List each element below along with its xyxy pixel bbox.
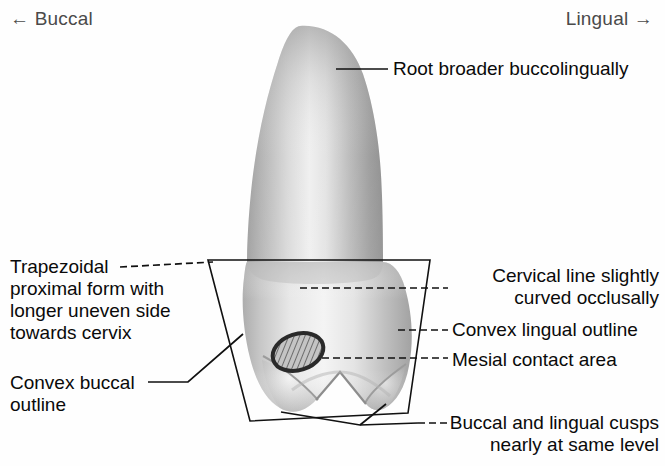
- annotation-trapezoidal-form: Trapezoidal proximal form with longer un…: [10, 256, 210, 344]
- annotation-mesial-contact-area: Mesial contact area: [452, 349, 617, 371]
- annotation-convex-buccal-outline: Convex buccal outline: [10, 372, 200, 416]
- tooth-body: [243, 26, 412, 412]
- annotation-cusps-same-level: Buccal and lingual cusps nearly at same …: [450, 412, 659, 456]
- annotation-cervical-line: Cervical line slightly curved occlusally: [492, 265, 659, 309]
- tooth-root-vertical-shade: [247, 26, 383, 262]
- annotation-convex-lingual-outline: Convex lingual outline: [452, 319, 638, 341]
- diagram-canvas: ← Buccal Lingual →: [0, 0, 665, 466]
- annotation-root-broader: Root broader buccolingually: [393, 58, 629, 80]
